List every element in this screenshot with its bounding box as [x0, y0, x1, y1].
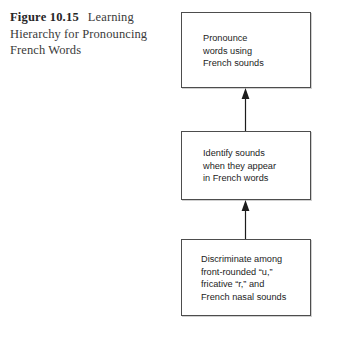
flowchart-node-pronounce[interactable]: Pronounce words using French sounds — [181, 12, 311, 88]
figure-caption: Figure 10.15Learning Hierarchy for Prono… — [10, 9, 172, 59]
flowchart-node-identify[interactable]: Identify sounds when they appear in Fren… — [181, 131, 311, 200]
flowchart-node-text: Pronounce words using French sounds — [203, 32, 264, 70]
arrow-bottom-to-middle-icon — [238, 200, 253, 239]
flowchart-node-text: Identify sounds when they appear in Fren… — [203, 147, 276, 185]
flowchart-node-discriminate[interactable]: Discriminate among front-rounded “u,” fr… — [181, 239, 311, 316]
arrow-middle-to-top-icon — [238, 88, 253, 131]
figure-label: Figure 10.15 — [10, 10, 79, 24]
flowchart-node-text: Discriminate among front-rounded “u,” fr… — [201, 253, 286, 303]
figure-page: Figure 10.15Learning Hierarchy for Prono… — [0, 0, 347, 338]
